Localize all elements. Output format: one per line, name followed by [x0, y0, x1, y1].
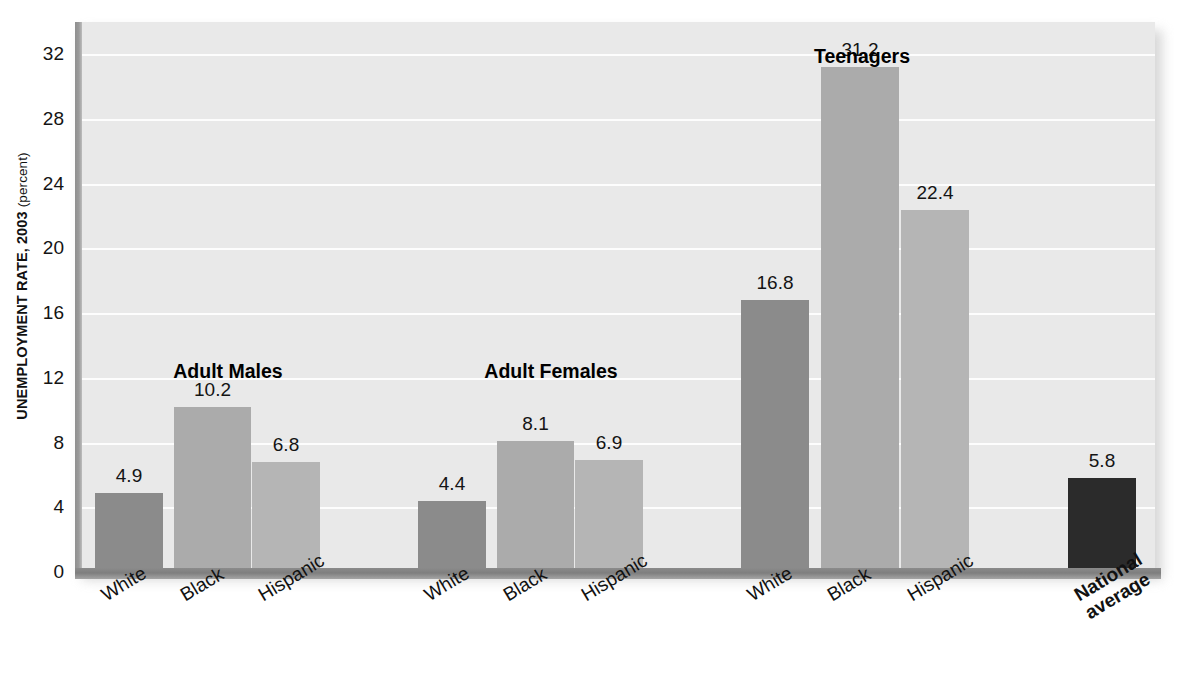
y-tick-label-4: 4: [24, 497, 64, 516]
y-tick-label-28: 28: [24, 109, 64, 128]
bar[interactable]: [418, 501, 486, 572]
gridline: [75, 184, 1155, 186]
gridline: [75, 248, 1155, 250]
bar-value-label: 10.2: [154, 380, 271, 399]
plot-area: [75, 22, 1155, 572]
bar[interactable]: [174, 407, 251, 572]
bar[interactable]: [741, 300, 809, 572]
y-tick-label-32: 32: [24, 44, 64, 63]
bar-value-label: 22.4: [881, 183, 989, 202]
bar-value-label: 6.9: [555, 433, 663, 452]
bar-value-label: 5.8: [1048, 451, 1156, 470]
y-axis-title: UNEMPLOYMENT RATE, 2003 (percent): [14, 26, 30, 546]
bar-value-label: 8.1: [477, 414, 594, 433]
y-axis-spine: [75, 22, 82, 574]
bar-value-label: 6.8: [232, 435, 340, 454]
bar-value-label: 16.8: [721, 273, 829, 292]
bar-value-label: 4.9: [75, 466, 183, 485]
group-title: Adult Females: [401, 362, 701, 382]
bar-value-label: 4.4: [398, 474, 506, 493]
y-tick-label-0: 0: [24, 562, 64, 581]
bar[interactable]: [95, 493, 163, 572]
gridline: [75, 119, 1155, 121]
gridline: [75, 313, 1155, 315]
y-tick-label-8: 8: [24, 433, 64, 452]
y-tick-label-20: 20: [24, 238, 64, 257]
bar[interactable]: [821, 67, 899, 572]
y-tick-label-24: 24: [24, 174, 64, 193]
y-tick-label-16: 16: [24, 303, 64, 322]
bar[interactable]: [497, 441, 574, 572]
group-title: Adult Males: [78, 362, 378, 382]
group-title: Teenagers: [712, 47, 1012, 67]
unemployment-rate-bar-chart: UNEMPLOYMENT RATE, 2003 (percent) 322824…: [0, 0, 1186, 687]
y-tick-label-12: 12: [24, 368, 64, 387]
bar[interactable]: [901, 210, 969, 572]
